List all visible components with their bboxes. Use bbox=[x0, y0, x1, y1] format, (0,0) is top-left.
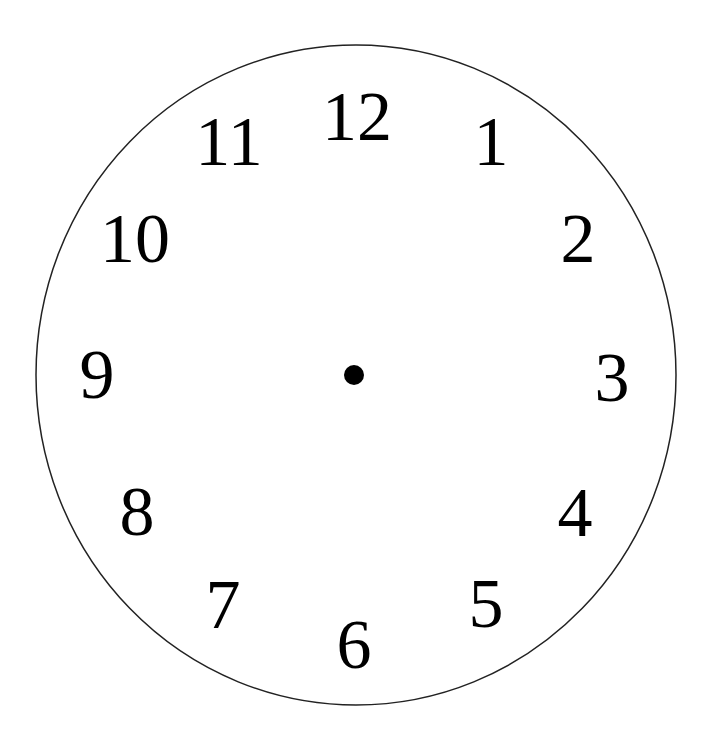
center-dot bbox=[344, 365, 364, 385]
numeral-12: 12 bbox=[322, 78, 392, 155]
numeral-4: 4 bbox=[558, 474, 593, 551]
numeral-11: 11 bbox=[195, 103, 262, 180]
numeral-3: 3 bbox=[595, 339, 630, 416]
numeral-1: 1 bbox=[474, 103, 509, 180]
numeral-2: 2 bbox=[561, 200, 596, 277]
clock-svg: 121234567891011 bbox=[0, 0, 706, 735]
numeral-6: 6 bbox=[337, 606, 372, 683]
numeral-8: 8 bbox=[120, 473, 155, 550]
numeral-9: 9 bbox=[80, 336, 115, 413]
numeral-5: 5 bbox=[469, 565, 504, 642]
clock-face-diagram: 121234567891011 bbox=[0, 0, 706, 735]
numeral-7: 7 bbox=[206, 566, 241, 643]
numeral-10: 10 bbox=[100, 200, 170, 277]
